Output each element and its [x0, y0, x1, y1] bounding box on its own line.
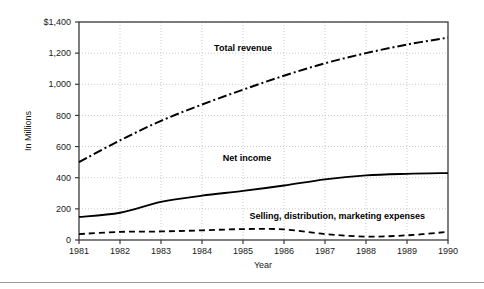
- x-tick-label: 1989: [397, 246, 417, 256]
- x-tick-label: 1984: [192, 246, 212, 256]
- y-tick-label: 200: [56, 204, 71, 214]
- x-tick-label: 1981: [69, 246, 89, 256]
- series-label: Net income: [223, 153, 272, 163]
- line-chart: 02004006008001,0001,200$1,400 1981198219…: [0, 0, 484, 289]
- plot-background: [79, 22, 448, 240]
- series-label: Total revenue: [214, 43, 272, 53]
- y-tick-label: 0: [66, 235, 71, 245]
- x-axis-title: Year: [254, 260, 272, 270]
- y-tick-label: $1,400: [43, 17, 71, 27]
- y-tick-label: 800: [56, 111, 71, 121]
- x-tick-label: 1987: [315, 246, 335, 256]
- x-tick-label: 1990: [438, 246, 458, 256]
- x-tick-label: 1985: [233, 246, 253, 256]
- y-axis-ticks: 02004006008001,0001,200$1,400: [43, 17, 79, 245]
- x-tick-label: 1983: [151, 246, 171, 256]
- x-tick-label: 1988: [356, 246, 376, 256]
- series-label: Selling, distribution, marketing expense…: [250, 211, 426, 221]
- y-tick-label: 1,000: [48, 79, 71, 89]
- y-axis-title: In Millions: [23, 110, 33, 151]
- chart-figure: 02004006008001,0001,200$1,400 1981198219…: [0, 0, 484, 289]
- y-tick-label: 1,200: [48, 48, 71, 58]
- x-tick-label: 1982: [110, 246, 130, 256]
- x-axis-ticks: 1981198219831984198519861987198819891990: [69, 240, 458, 256]
- y-tick-label: 600: [56, 142, 71, 152]
- x-tick-label: 1986: [274, 246, 294, 256]
- page-divider: [0, 282, 484, 283]
- y-tick-label: 400: [56, 173, 71, 183]
